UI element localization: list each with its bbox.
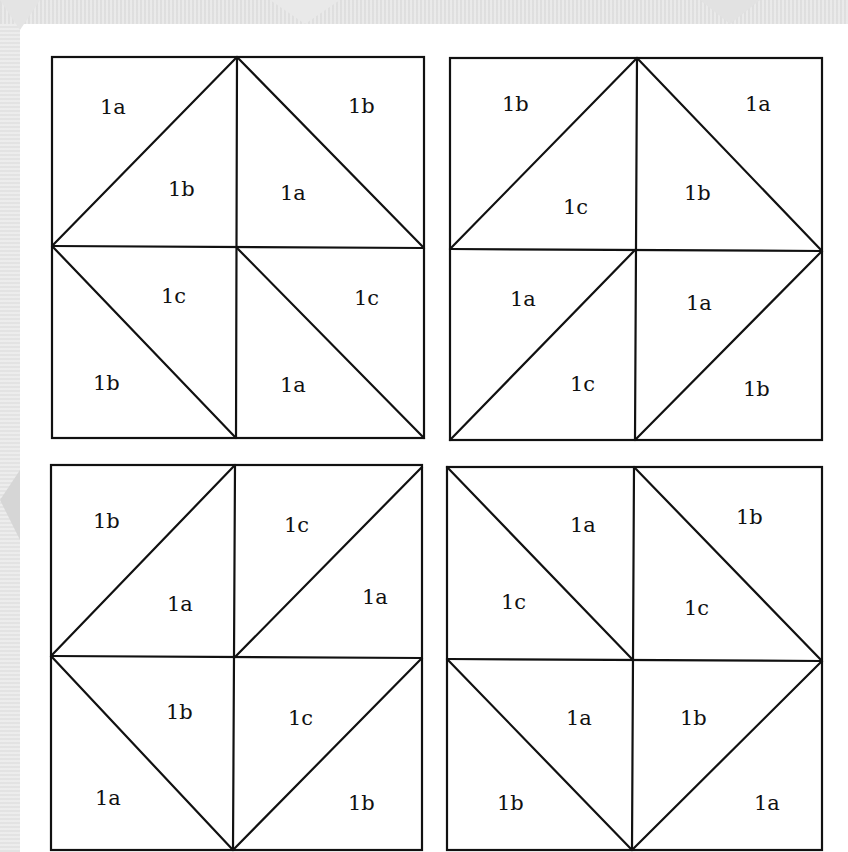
piece-label: 1c [161, 284, 186, 308]
seam-diagonal [450, 58, 637, 249]
piece-label: 1a [95, 786, 121, 810]
quilt-block-top-left: 1a 1b 1b 1a 1c 1b 1c 1a [52, 57, 424, 438]
backdrop-triangle [0, 470, 20, 540]
piece-label: 1a [510, 287, 536, 311]
piece-label: 1c [288, 706, 313, 730]
seam-diagonal [233, 658, 422, 850]
backdrop-triangle [0, 0, 40, 30]
piece-label: 1c [684, 596, 709, 620]
quilt-diagram: 1a 1b 1b 1a 1c 1b 1c 1a 1b 1c 1a 1b 1a 1… [0, 0, 848, 852]
backdrop-triangle [270, 0, 340, 24]
seam-diagonal [237, 57, 424, 248]
seam-diagonal [634, 467, 822, 661]
seam-diagonal [51, 465, 235, 656]
piece-label: 1c [354, 286, 379, 310]
piece-label: 1a [100, 95, 126, 119]
seam-diagonal [447, 467, 632, 659]
backdrop-triangle [700, 0, 760, 24]
piece-label: 1c [501, 590, 526, 614]
seam-diagonal [52, 246, 236, 438]
piece-label: 1c [570, 372, 595, 396]
seam-diagonal [235, 467, 422, 657]
quilt-block-bottom-left: 1b 1a 1c 1a 1b 1a 1c 1b [51, 465, 422, 850]
piece-label: 1a [167, 592, 193, 616]
piece-label: 1b [348, 791, 375, 815]
piece-label: 1b [502, 92, 529, 116]
piece-label: 1a [745, 92, 771, 116]
piece-label: 1a [280, 373, 306, 397]
seam-diagonal [51, 656, 233, 850]
piece-label: 1a [754, 791, 780, 815]
piece-label: 1b [736, 505, 763, 529]
piece-label: 1b [166, 700, 193, 724]
piece-label: 1b [93, 371, 120, 395]
piece-label: 1c [284, 513, 309, 537]
piece-label: 1a [362, 585, 388, 609]
seam-diagonal [450, 250, 635, 440]
piece-label: 1c [563, 195, 588, 219]
seam-horizontal [447, 659, 822, 661]
seam-diagonal [447, 659, 632, 850]
seam-diagonal [637, 58, 822, 251]
quilt-block-top-right: 1b 1c 1a 1b 1a 1c 1a 1b [450, 58, 822, 440]
piece-label: 1a [280, 181, 306, 205]
quilt-block-bottom-right: 1a 1c 1b 1c 1a 1b 1b 1a [447, 467, 822, 850]
piece-label: 1b [93, 509, 120, 533]
seam-diagonal [635, 251, 822, 440]
piece-label: 1a [570, 513, 596, 537]
piece-label: 1a [686, 291, 712, 315]
piece-label: 1a [566, 706, 592, 730]
piece-label: 1b [684, 181, 711, 205]
seam-diagonal [52, 57, 237, 246]
piece-label: 1b [680, 706, 707, 730]
seam-diagonal [237, 248, 424, 438]
piece-label: 1b [348, 94, 375, 118]
piece-label: 1b [743, 377, 770, 401]
piece-label: 1b [168, 177, 195, 201]
piece-label: 1b [497, 791, 524, 815]
seam-diagonal [632, 661, 822, 850]
